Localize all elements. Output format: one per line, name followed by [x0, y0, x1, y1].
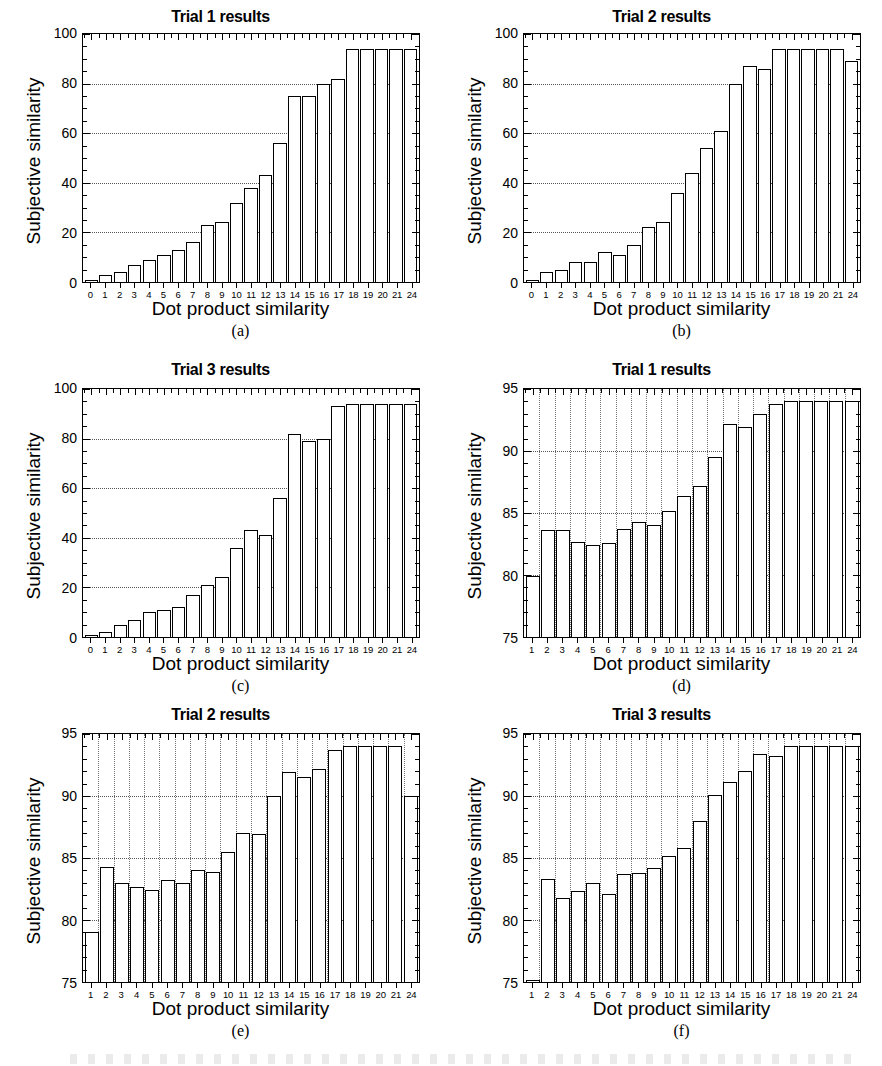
x-tick-mark [266, 283, 267, 288]
bar [816, 49, 829, 282]
x-tick-mark [736, 283, 737, 288]
y-minor-tick [415, 563, 419, 564]
y-minor-tick [856, 895, 860, 896]
x-tick-mark [295, 283, 296, 288]
tick-mark [669, 734, 670, 740]
tick-mark [137, 734, 138, 740]
tick-mark [662, 389, 663, 393]
y-minor-tick [83, 612, 87, 613]
y-tick-label: 80 [61, 430, 77, 446]
y-minor-tick [415, 476, 419, 477]
tick-mark [583, 34, 584, 38]
y-axis-label-d: Subjective similarity [464, 396, 486, 636]
tick-mark [342, 734, 343, 738]
x-tick-mark [120, 638, 121, 643]
bar [656, 222, 669, 282]
bar [312, 769, 326, 982]
bar [662, 856, 676, 982]
y-minor-tick [856, 833, 860, 834]
y-minor-tick [83, 463, 87, 464]
tick-mark [171, 34, 172, 38]
y-minor-tick [856, 121, 860, 122]
bar [206, 872, 220, 982]
y-minor-tick [856, 957, 860, 958]
tick-mark [814, 389, 815, 393]
x-tick-mark [397, 638, 398, 643]
y-minor-tick [83, 71, 87, 72]
y-tick-label: 80 [502, 912, 518, 928]
tick-mark [641, 34, 642, 38]
y-minor-tick [856, 982, 860, 983]
bar [259, 175, 272, 282]
tick-mark [677, 734, 678, 738]
tick-mark [273, 389, 274, 393]
y-minor-tick [856, 883, 860, 884]
y-minor-tick [415, 170, 419, 171]
y-minor-tick [856, 908, 860, 909]
bar [252, 834, 266, 982]
y-tick-label: 85 [502, 850, 518, 866]
scan-artifact [70, 1054, 862, 1064]
y-minor-tick [856, 146, 860, 147]
tick-mark [561, 34, 562, 40]
x-tick-mark [178, 283, 179, 288]
tick-mark [149, 34, 150, 40]
x-tick-mark [243, 983, 244, 988]
y-tick-label: 80 [61, 75, 77, 91]
tick-mark [616, 389, 617, 393]
y-minor-tick [856, 158, 860, 159]
y-minor-tick [83, 220, 87, 221]
x-tick-mark [623, 983, 624, 988]
tick-mark [107, 734, 108, 740]
y-minor-tick [524, 282, 528, 283]
tick-mark [707, 734, 708, 738]
y-minor-tick [524, 550, 528, 551]
bar [845, 61, 858, 282]
tick-mark [338, 34, 339, 40]
tick-mark [829, 734, 830, 738]
tick-mark [647, 389, 648, 393]
y-minor-tick [415, 846, 419, 847]
y-minor-tick [415, 970, 419, 971]
tick-mark [265, 389, 266, 395]
tick-mark [656, 34, 657, 38]
tick-mark [586, 734, 587, 738]
bar [729, 84, 742, 282]
tick-mark [130, 734, 131, 738]
y-minor-tick [415, 734, 419, 735]
tick-mark [554, 34, 555, 38]
tick-mark [309, 34, 310, 40]
tick-mark [215, 389, 216, 393]
y-tick-label: 80 [61, 912, 77, 928]
tick-mark [783, 734, 784, 738]
x-tick-mark [654, 638, 655, 643]
tick-mark [631, 389, 632, 393]
y-minor-tick [524, 501, 528, 502]
panel-caption-f: (f) [481, 1022, 882, 1040]
x-tick-mark [411, 983, 412, 988]
tick-mark [374, 389, 375, 393]
bar [526, 576, 540, 637]
tick-mark [302, 34, 303, 38]
tick-mark [612, 34, 613, 38]
bar [143, 260, 156, 282]
y-tick-label: 60 [502, 125, 518, 141]
bar [244, 530, 257, 637]
tick-mark [776, 389, 777, 395]
chart-panel-e: Trial 2 resultsSubjective similarity7580… [0, 700, 441, 1066]
plot-area-c: 0204060801000123456789101112131415161718… [82, 388, 420, 638]
y-minor-tick [415, 426, 419, 427]
y-tick-label: 95 [502, 725, 518, 741]
x-tick-mark [236, 638, 237, 643]
x-tick-mark [684, 983, 685, 988]
y-minor-tick [83, 257, 87, 258]
tick-mark [593, 389, 594, 395]
bar [273, 498, 286, 637]
y-axis-label-e: Subjective similarity [23, 741, 45, 981]
x-tick-mark [593, 983, 594, 988]
bar [801, 49, 814, 282]
x-tick-mark [776, 638, 777, 643]
bar [99, 632, 112, 637]
x-axis-label-b: Dot product similarity [481, 298, 882, 320]
tick-mark [213, 734, 214, 740]
